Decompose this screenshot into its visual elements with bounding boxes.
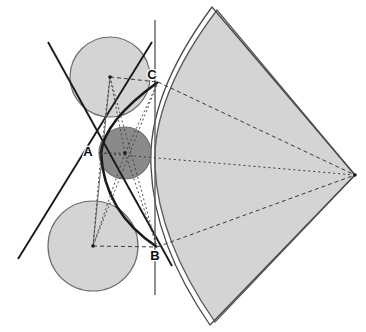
center-dark-circle bbox=[123, 151, 127, 155]
sector-group bbox=[151, 7, 355, 325]
center-lower-circle bbox=[91, 244, 95, 248]
label-C: C bbox=[147, 67, 157, 82]
geometry-canvas: ABC bbox=[0, 0, 366, 332]
center-upper-circle bbox=[108, 75, 112, 79]
label-A: A bbox=[83, 144, 93, 159]
sector-apex-point bbox=[353, 173, 357, 177]
label-B: B bbox=[150, 248, 159, 263]
geometry-figure: ABC bbox=[0, 0, 366, 332]
circles-group bbox=[48, 37, 151, 291]
